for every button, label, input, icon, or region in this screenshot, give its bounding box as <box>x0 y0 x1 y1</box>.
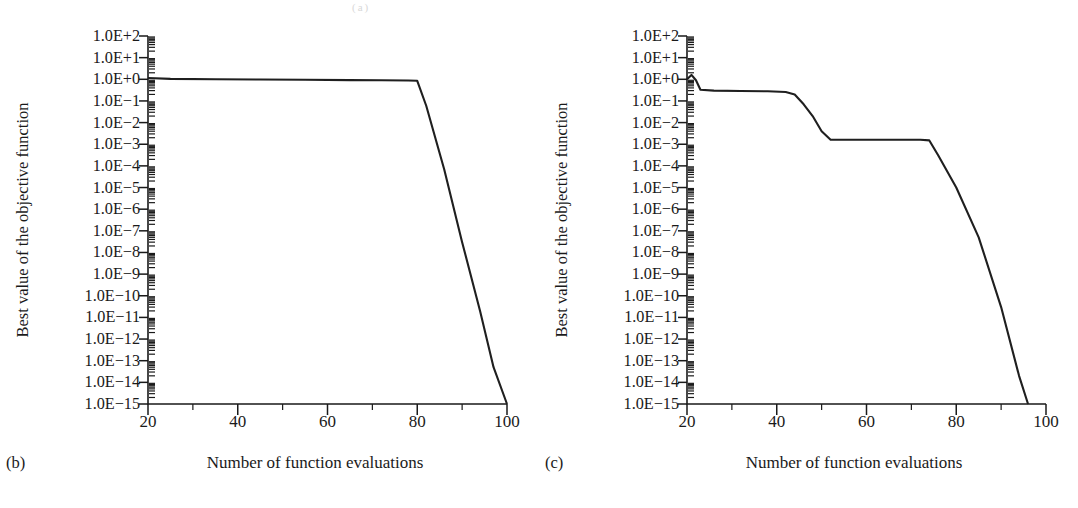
panel-b: Best value of the objective function1.0E… <box>0 0 539 508</box>
figure-container: (a) Best value of the objective function… <box>0 0 1078 508</box>
plot-area-c <box>539 0 1078 508</box>
data-series-line-c <box>687 75 1028 404</box>
plot-area-b <box>0 0 539 508</box>
panel-c: Best value of the objective function1.0E… <box>539 0 1078 508</box>
data-series-line-b <box>148 78 507 404</box>
axis-spine-b <box>148 36 507 404</box>
